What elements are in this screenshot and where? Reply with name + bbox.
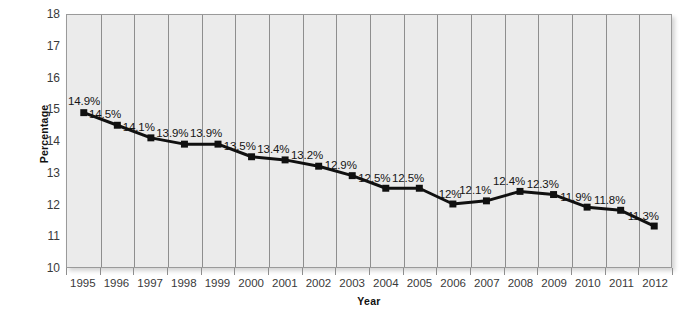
x-axis-tick-label: 2001 bbox=[268, 278, 302, 290]
data-point-marker bbox=[147, 134, 154, 141]
data-point-marker bbox=[651, 223, 658, 230]
x-axis-tick-mark bbox=[268, 268, 269, 275]
y-axis-tick-label: 14 bbox=[26, 135, 60, 147]
data-point-marker bbox=[550, 191, 557, 198]
data-point-marker bbox=[449, 201, 456, 208]
x-axis-tick-mark bbox=[571, 268, 572, 275]
data-point-marker bbox=[483, 197, 490, 204]
data-point-marker bbox=[80, 109, 87, 116]
x-axis-tick-label: 1996 bbox=[100, 278, 134, 290]
data-point-marker bbox=[349, 172, 356, 179]
y-axis-tick-label: 17 bbox=[26, 40, 60, 52]
x-axis-tick-mark bbox=[672, 268, 673, 275]
data-point-label: 12.5% bbox=[392, 173, 424, 185]
data-point-marker bbox=[617, 207, 624, 214]
x-axis-tick-label: 2003 bbox=[335, 278, 369, 290]
x-axis-tick-mark bbox=[537, 268, 538, 275]
data-point-marker bbox=[517, 188, 524, 195]
x-axis-tick-mark bbox=[504, 268, 505, 275]
x-axis-tick-mark bbox=[302, 268, 303, 275]
x-axis-tick-label: 2004 bbox=[369, 278, 403, 290]
x-axis-tick-mark bbox=[436, 268, 437, 275]
x-axis-tick-label: 2006 bbox=[436, 278, 470, 290]
x-axis-tick-mark bbox=[470, 268, 471, 275]
x-axis-tick-mark bbox=[201, 268, 202, 275]
x-axis-tick-mark bbox=[100, 268, 101, 275]
data-point-label: 11.8% bbox=[594, 195, 625, 207]
data-point-marker bbox=[114, 122, 121, 129]
data-point-marker bbox=[416, 185, 423, 192]
data-point-marker bbox=[282, 156, 289, 163]
data-point-label: 13.2% bbox=[291, 150, 323, 162]
data-point-label: 14.5% bbox=[89, 109, 121, 121]
data-point-label: 11.3% bbox=[628, 211, 659, 223]
data-point-marker bbox=[181, 141, 188, 148]
data-series-line bbox=[67, 15, 671, 267]
line-chart: Percentage 101112131415161718 14.9%14.5%… bbox=[0, 0, 691, 315]
data-point-label: 13.4% bbox=[257, 144, 289, 156]
x-axis-tick-label: 2005 bbox=[403, 278, 437, 290]
data-point-label: 13.9% bbox=[156, 128, 188, 140]
data-point-label: 12.4% bbox=[493, 176, 525, 188]
x-axis-tick-label: 1998 bbox=[167, 278, 201, 290]
x-axis-tick-mark bbox=[638, 268, 639, 275]
y-axis-tick-label: 11 bbox=[26, 230, 60, 242]
x-axis-title: Year bbox=[66, 295, 672, 307]
data-point-marker bbox=[315, 163, 322, 170]
data-point-label: 12.3% bbox=[527, 179, 559, 191]
plot-area: 14.9%14.5%14.1%13.9%13.9%13.5%13.4%13.2%… bbox=[66, 14, 672, 268]
x-axis-tick-label: 2010 bbox=[571, 278, 605, 290]
data-point-label: 12.5% bbox=[358, 173, 390, 185]
data-point-label: 13.5% bbox=[224, 141, 256, 153]
x-axis-tick-label: 2000 bbox=[234, 278, 268, 290]
x-axis-tick-mark bbox=[167, 268, 168, 275]
x-axis-tick-label: 2009 bbox=[537, 278, 571, 290]
data-point-label: 13.9% bbox=[190, 128, 222, 140]
x-axis-tick-label: 1999 bbox=[201, 278, 235, 290]
data-point-marker bbox=[215, 141, 222, 148]
x-axis-tick-label: 2012 bbox=[638, 278, 672, 290]
x-axis-tick-mark bbox=[403, 268, 404, 275]
data-point-marker bbox=[382, 185, 389, 192]
data-point-marker bbox=[248, 153, 255, 160]
x-axis-tick-mark bbox=[234, 268, 235, 275]
x-axis-tick-mark bbox=[605, 268, 606, 275]
x-axis-tick-label: 1997 bbox=[133, 278, 167, 290]
y-axis-tick-label: 12 bbox=[26, 199, 60, 211]
x-axis-tick-mark bbox=[66, 268, 67, 275]
x-axis-tick-mark bbox=[369, 268, 370, 275]
data-point-marker bbox=[584, 204, 591, 211]
x-axis-tick-label: 2007 bbox=[470, 278, 504, 290]
data-point-label: 14.1% bbox=[123, 122, 155, 134]
y-axis-tick-label: 13 bbox=[26, 167, 60, 179]
y-axis-tick-label: 10 bbox=[26, 262, 60, 274]
data-point-label: 14.9% bbox=[68, 96, 100, 108]
x-axis-tick-mark bbox=[133, 268, 134, 275]
x-axis-tick-label: 2002 bbox=[302, 278, 336, 290]
y-axis-tick-labels: 101112131415161718 bbox=[26, 0, 60, 315]
y-axis-tick-label: 15 bbox=[26, 103, 60, 115]
y-axis-tick-label: 18 bbox=[26, 8, 60, 20]
data-point-label: 12.1% bbox=[459, 185, 491, 197]
y-axis-tick-label: 16 bbox=[26, 72, 60, 84]
x-axis-tick-label: 2008 bbox=[504, 278, 538, 290]
data-point-label: 12% bbox=[439, 189, 462, 201]
data-point-label: 12.9% bbox=[325, 160, 357, 172]
x-axis-tick-label: 2011 bbox=[605, 278, 639, 290]
data-point-label: 11.9% bbox=[560, 192, 591, 204]
x-axis-tick-mark bbox=[335, 268, 336, 275]
x-axis-tick-label: 1995 bbox=[66, 278, 100, 290]
